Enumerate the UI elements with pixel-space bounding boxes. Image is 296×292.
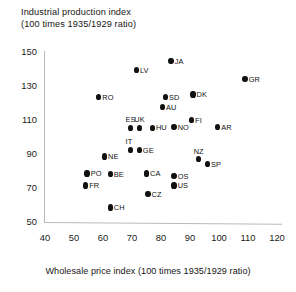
scatter-chart: Industrial production index (100 times 1… (0, 0, 296, 292)
x-tick-40: 40 (32, 232, 58, 243)
data-point-label-no: NO (178, 123, 189, 132)
data-point-be[interactable] (108, 171, 113, 177)
data-point-label-ja: JA (175, 57, 184, 66)
y-tick-110: 110 (11, 114, 37, 125)
data-point-au[interactable] (160, 104, 165, 110)
data-point-ja[interactable] (168, 58, 173, 64)
y-axis-line (44, 51, 45, 223)
y-tick-70: 70 (11, 182, 37, 193)
data-point-label-lv: LV (140, 66, 149, 75)
data-point-us[interactable] (171, 182, 176, 188)
y-tick-130: 130 (11, 80, 37, 91)
data-point-sp[interactable] (205, 161, 210, 167)
data-point-label-ne: NE (108, 152, 118, 161)
x-axis-line (44, 222, 282, 225)
data-point-ge[interactable] (137, 147, 142, 153)
data-point-nz[interactable] (196, 156, 201, 162)
data-point-label-ch: CH (114, 203, 125, 212)
data-point-gr[interactable] (242, 76, 247, 82)
data-point-label-gr: GR (249, 75, 260, 84)
chart-title-line-1: Industrial production index (21, 6, 136, 18)
data-point-label-nz: NZ (194, 147, 204, 156)
data-point-label-sp: SP (211, 160, 221, 169)
data-point-label-fi: FI (195, 116, 202, 125)
data-point-dk[interactable] (190, 91, 195, 97)
data-point-label-cz: CZ (152, 190, 162, 199)
data-point-label-os: OS (178, 172, 189, 181)
data-point-label-ge: GE (143, 146, 154, 155)
data-point-label-au: AU (166, 103, 176, 112)
data-point-label-po: PO (91, 169, 102, 178)
data-point-ro[interactable] (96, 94, 101, 100)
data-point-label-us: US (178, 181, 188, 190)
x-tick-90: 90 (177, 232, 203, 243)
data-point-fi[interactable] (189, 117, 194, 123)
data-point-ch[interactable] (108, 204, 113, 210)
data-point-ca[interactable] (144, 170, 149, 176)
data-point-label-dk: DK (197, 90, 207, 99)
data-point-label-ro: RO (102, 93, 113, 102)
data-point-lv[interactable] (134, 67, 139, 73)
data-point-label-fr: FR (89, 181, 99, 190)
data-point-es[interactable] (128, 125, 133, 131)
y-tick-90: 90 (11, 148, 37, 159)
x-tick-60: 60 (90, 232, 116, 243)
data-point-label-it: IT (126, 137, 133, 146)
x-axis-title: Wholesale price index (100 times 1935/19… (0, 266, 296, 276)
data-point-hu[interactable] (150, 125, 155, 131)
data-point-os[interactable] (171, 173, 176, 179)
data-point-ne[interactable] (102, 153, 107, 159)
y-tick-150: 150 (11, 46, 37, 57)
data-point-label-be: BE (114, 170, 124, 179)
data-point-it[interactable] (128, 147, 133, 153)
x-tick-80: 80 (148, 232, 174, 243)
chart-title: Industrial production index (100 times 1… (21, 6, 136, 30)
data-point-fr[interactable] (83, 182, 88, 188)
data-point-label-uk: UK (134, 115, 144, 124)
data-point-label-hu: HU (156, 123, 167, 132)
x-tick-110: 110 (235, 232, 261, 243)
data-point-cz[interactable] (145, 191, 150, 197)
data-point-sd[interactable] (163, 94, 168, 100)
data-point-ar[interactable] (215, 124, 220, 130)
data-point-label-ca: CA (150, 169, 160, 178)
x-tick-70: 70 (119, 232, 145, 243)
chart-title-line-2: (100 times 1935/1929 ratio) (21, 18, 136, 30)
data-point-po[interactable] (84, 170, 89, 176)
y-tick-50: 50 (11, 216, 37, 227)
data-point-label-ar: AR (221, 123, 231, 132)
data-point-uk[interactable] (137, 125, 142, 131)
data-point-label-sd: SD (169, 93, 179, 102)
data-point-no[interactable] (171, 124, 176, 130)
x-tick-120: 120 (264, 232, 290, 243)
x-tick-50: 50 (61, 232, 87, 243)
x-tick-100: 100 (206, 232, 232, 243)
